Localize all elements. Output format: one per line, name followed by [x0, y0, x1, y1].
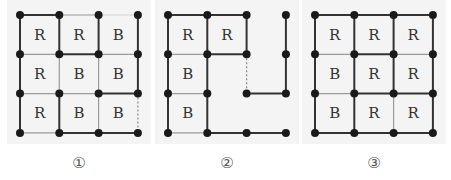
cell-R: R — [34, 65, 46, 83]
cell-R: R — [408, 65, 420, 83]
grid-node — [243, 50, 251, 58]
grid-node — [95, 129, 103, 137]
cell-R: R — [221, 26, 233, 44]
grid-node — [55, 11, 63, 19]
grid-node — [350, 11, 358, 19]
grid-node — [164, 11, 172, 19]
grid-node — [134, 11, 142, 19]
cell-B: B — [73, 104, 84, 122]
grid-node — [203, 11, 211, 19]
cell-R: R — [73, 26, 85, 44]
cell-B: B — [329, 104, 340, 122]
grid-node — [243, 11, 251, 19]
grid-node — [390, 11, 398, 19]
grid-node — [55, 50, 63, 58]
grid-node — [134, 90, 142, 98]
grid-node — [390, 129, 398, 137]
grid-figure-2: RRBB② — [155, 0, 299, 172]
grid-node — [243, 129, 251, 137]
grid-node — [429, 50, 437, 58]
grid-figure-1: RRBRBBRBB① — [7, 0, 151, 172]
grid-node — [282, 129, 290, 137]
grid-node — [282, 11, 290, 19]
cell-B: B — [73, 65, 84, 83]
grid-node — [95, 11, 103, 19]
grid-node — [350, 129, 358, 137]
grid-node — [164, 129, 172, 137]
cell-B: B — [329, 65, 340, 83]
grid-node — [203, 50, 211, 58]
cell-B: B — [182, 104, 193, 122]
grid-node — [55, 90, 63, 98]
cell-B: B — [113, 26, 124, 44]
cell-R: R — [329, 26, 341, 44]
grid-node — [203, 90, 211, 98]
grid-node — [95, 50, 103, 58]
cell-R: R — [408, 104, 420, 122]
grid-node — [429, 129, 437, 137]
cell-R: R — [408, 26, 420, 44]
grid-node — [16, 11, 24, 19]
grid-node — [282, 90, 290, 98]
grid-node — [429, 11, 437, 19]
figure-label: ① — [72, 154, 85, 172]
grid-node — [134, 129, 142, 137]
grid-node — [16, 50, 24, 58]
cell-R: R — [182, 26, 194, 44]
grid-node — [311, 129, 319, 137]
grid-node — [95, 90, 103, 98]
grid-node — [282, 50, 290, 58]
grid-node — [311, 50, 319, 58]
figure-label: ② — [220, 154, 233, 172]
grid-node — [390, 90, 398, 98]
grid-node — [134, 50, 142, 58]
cell-R: R — [34, 26, 46, 44]
grid-figure-3: RRRBRRBRR③ — [302, 0, 446, 172]
figure-panel — [155, 0, 299, 144]
grid-node — [311, 11, 319, 19]
grid-node — [164, 50, 172, 58]
cell-B: B — [113, 65, 124, 83]
grid-node — [16, 129, 24, 137]
grid-node — [429, 90, 437, 98]
grid-node — [55, 129, 63, 137]
grid-node — [390, 50, 398, 58]
grid-node — [350, 50, 358, 58]
figure-label: ③ — [367, 154, 380, 172]
grid-node — [16, 90, 24, 98]
grid-node — [350, 90, 358, 98]
cell-B: B — [113, 104, 124, 122]
cell-R: R — [368, 26, 380, 44]
diagram-canvas: RRBRBBRBB①RRBB②RRRBRRBRR③ — [0, 0, 451, 180]
grid-node — [164, 90, 172, 98]
cell-B: B — [182, 65, 193, 83]
grid-node — [203, 129, 211, 137]
cell-R: R — [368, 65, 380, 83]
cell-R: R — [34, 104, 46, 122]
grid-node — [311, 90, 319, 98]
grid-node — [243, 90, 251, 98]
cell-R: R — [368, 104, 380, 122]
